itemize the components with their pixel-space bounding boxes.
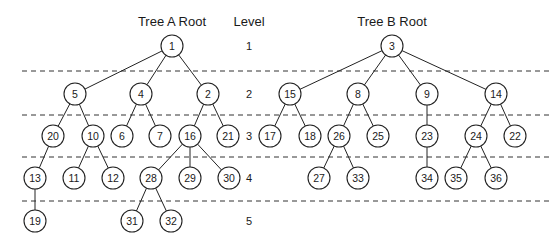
node-label: 34 xyxy=(421,172,433,184)
tree-diagram: Tree A Root Level Tree B Root 1 2 3 4 5 … xyxy=(0,0,552,247)
tree-node-35: 35 xyxy=(445,167,467,189)
tree-node-16: 16 xyxy=(179,125,201,147)
tree-node-10: 10 xyxy=(82,125,104,147)
tree-edge xyxy=(179,55,202,85)
tree-node-6: 6 xyxy=(111,125,133,147)
node-label: 14 xyxy=(490,88,502,100)
node-label: 24 xyxy=(470,130,482,142)
tree-node-34: 34 xyxy=(416,167,438,189)
level-label: 2 xyxy=(246,88,252,100)
node-label: 4 xyxy=(138,88,144,100)
node-label: 16 xyxy=(184,130,196,142)
tree-edge xyxy=(197,144,221,170)
tree-node-19: 19 xyxy=(24,210,46,232)
level-labels: 1 2 3 4 5 xyxy=(246,40,252,227)
node-label: 7 xyxy=(157,130,163,142)
node-label: 5 xyxy=(72,88,78,100)
node-label: 9 xyxy=(424,88,430,100)
tree-node-3: 3 xyxy=(381,35,403,57)
tree-edge xyxy=(146,104,156,126)
tree-node-15: 15 xyxy=(279,83,301,105)
tree-node-9: 9 xyxy=(416,83,438,105)
tree-node-11: 11 xyxy=(63,167,85,189)
tree-node-2: 2 xyxy=(197,83,219,105)
tree-node-5: 5 xyxy=(64,83,86,105)
node-label: 27 xyxy=(313,172,325,184)
tree-edge xyxy=(398,55,420,85)
tree-edge xyxy=(85,51,162,89)
node-label: 3 xyxy=(389,40,395,52)
tree-nodes: 1542201067162113111228293019313231589141… xyxy=(24,35,526,232)
tree-node-13: 13 xyxy=(24,167,46,189)
node-label: 18 xyxy=(304,130,316,142)
tree-node-26: 26 xyxy=(328,125,350,147)
tree-edge xyxy=(344,104,354,126)
tree-node-21: 21 xyxy=(217,125,239,147)
level-label: 4 xyxy=(246,172,252,184)
node-label: 17 xyxy=(264,130,276,142)
node-label: 2 xyxy=(205,88,211,100)
tree-node-14: 14 xyxy=(485,83,507,105)
tree-node-12: 12 xyxy=(102,167,124,189)
node-label: 21 xyxy=(222,130,234,142)
node-label: 11 xyxy=(69,172,80,184)
tree-node-23: 23 xyxy=(416,125,438,147)
level-label: 5 xyxy=(246,215,252,227)
tree-node-25: 25 xyxy=(367,125,389,147)
tree-edge xyxy=(364,55,385,85)
tree-edge xyxy=(300,51,382,90)
node-label: 12 xyxy=(107,172,119,184)
tree-edge xyxy=(461,146,472,168)
node-label: 25 xyxy=(372,130,384,142)
tree-b-title: Tree B Root xyxy=(357,14,427,29)
node-label: 31 xyxy=(126,215,138,227)
node-label: 28 xyxy=(145,172,157,184)
tree-node-32: 32 xyxy=(160,210,182,232)
node-label: 19 xyxy=(29,215,41,227)
tree-node-24: 24 xyxy=(465,125,487,147)
tree-edge xyxy=(147,55,166,85)
node-label: 22 xyxy=(509,130,521,142)
tree-node-18: 18 xyxy=(299,125,321,147)
tree-edge xyxy=(402,51,486,90)
tree-node-31: 31 xyxy=(121,210,143,232)
tree-node-1: 1 xyxy=(161,35,183,57)
tree-node-28: 28 xyxy=(140,167,162,189)
tree-node-33: 33 xyxy=(347,167,369,189)
node-label: 13 xyxy=(29,172,41,184)
node-label: 1 xyxy=(169,40,175,52)
tree-node-27: 27 xyxy=(308,167,330,189)
node-label: 23 xyxy=(421,130,433,142)
tree-edge xyxy=(156,188,167,211)
node-label: 10 xyxy=(87,130,99,142)
level-header: Level xyxy=(233,14,264,29)
node-label: 20 xyxy=(47,130,59,142)
tree-node-36: 36 xyxy=(485,167,507,189)
node-label: 35 xyxy=(450,172,462,184)
tree-node-20: 20 xyxy=(42,125,64,147)
node-label: 36 xyxy=(490,172,502,184)
node-label: 6 xyxy=(119,130,125,142)
tree-node-22: 22 xyxy=(504,125,526,147)
node-label: 8 xyxy=(355,88,361,100)
tree-node-4: 4 xyxy=(130,83,152,105)
tree-edge xyxy=(136,188,146,211)
level-label: 3 xyxy=(246,130,252,142)
node-label: 29 xyxy=(184,172,196,184)
node-label: 32 xyxy=(165,215,177,227)
tree-a-title: Tree A Root xyxy=(138,14,207,29)
level-label: 1 xyxy=(246,40,252,52)
tree-node-29: 29 xyxy=(179,167,201,189)
node-label: 15 xyxy=(284,88,296,100)
node-label: 33 xyxy=(352,172,364,184)
node-label: 26 xyxy=(333,130,345,142)
tree-edge xyxy=(344,146,354,168)
tree-node-8: 8 xyxy=(347,83,369,105)
tree-node-17: 17 xyxy=(259,125,281,147)
tree-node-30: 30 xyxy=(218,167,240,189)
node-label: 30 xyxy=(223,172,235,184)
tree-node-7: 7 xyxy=(149,125,171,147)
